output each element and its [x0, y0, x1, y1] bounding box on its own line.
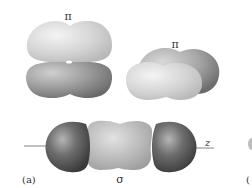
- next-panel-orbital-fragment: [248, 138, 252, 150]
- sigma-label: σ: [116, 173, 124, 186]
- sigma-left-lobe: [46, 122, 91, 172]
- pi-label-vertical: π: [64, 10, 71, 23]
- panel-label-b-fragment: (: [246, 174, 250, 185]
- pi-orbital-tilted: [126, 48, 219, 100]
- z-axis-label: z: [204, 137, 211, 148]
- sigma-orbital: [24, 121, 214, 172]
- pi-label-tilted: π: [171, 38, 178, 51]
- pi-upper-lobe: [27, 21, 112, 62]
- pi-orbital-vertical: [26, 21, 112, 98]
- pi-tilted-front-lobe: [126, 62, 202, 100]
- sigma-center-lobe: [87, 121, 152, 170]
- node-highlight: [66, 60, 72, 63]
- pi-lower-lobe: [26, 62, 112, 98]
- orbital-diagram: π π σ z (a) (: [0, 0, 252, 188]
- sigma-right-lobe: [152, 122, 197, 172]
- panel-label-a: (a): [22, 174, 36, 185]
